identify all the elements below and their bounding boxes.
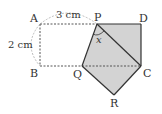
label-B: B <box>30 67 38 80</box>
label-Q: Q <box>73 68 82 81</box>
geometry-diagram: A B P D C Q R 3 cm 2 cm x <box>0 0 162 114</box>
measure-top: 3 cm <box>56 9 81 20</box>
label-P: P <box>94 11 102 24</box>
shaded-region <box>82 24 141 95</box>
label-C: C <box>143 67 151 80</box>
measure-left: 2 cm <box>8 39 33 50</box>
label-R: R <box>110 97 119 110</box>
angle-label-x: x <box>96 34 102 45</box>
label-A: A <box>29 12 39 25</box>
label-D: D <box>139 12 148 25</box>
